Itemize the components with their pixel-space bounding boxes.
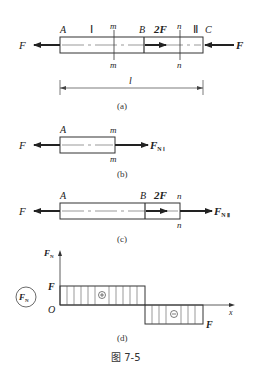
x-axis-arrow-icon (229, 303, 235, 307)
panel-b: F A m m FN Ⅰ (b) (18, 124, 165, 179)
point-b-label: B (140, 190, 146, 201)
panel-b-caption: (b) (117, 169, 128, 179)
panel-c: F A B 2F n n FN Ⅱ (c) (18, 189, 230, 244)
force-left-label: F (18, 39, 26, 51)
point-a-label: A (59, 190, 67, 201)
length-label: l (129, 75, 132, 86)
section-m-bottom-label: m (110, 60, 117, 70)
section-n-bottom-label: n (177, 220, 182, 230)
pos-value-label: F (47, 281, 55, 292)
internal-force-label: FN Ⅱ (213, 205, 230, 218)
neg-value-label: F (205, 319, 213, 330)
dim-arrow-left-icon (60, 86, 66, 90)
panel-d: FN F O x F FN (d) (16, 248, 235, 343)
point-b-label: B (139, 24, 145, 35)
y-axis-arrow-icon (58, 250, 62, 256)
segment-i-label: Ⅰ (90, 23, 93, 35)
force-right-label: F (235, 39, 244, 51)
figure-caption: 图 7-5 (111, 352, 141, 363)
force-left-label: F (18, 205, 26, 217)
panel-a: F A Ⅰ m m B 2F n n Ⅱ C F l (a) (18, 21, 244, 111)
section-m-top-label: m (110, 125, 117, 135)
section-n-top-label: n (177, 191, 182, 201)
internal-force-label: FN Ⅰ (149, 139, 165, 152)
origin-label: O (48, 304, 55, 315)
point-a-label: A (59, 24, 67, 35)
force-2f-label: 2F (153, 189, 168, 201)
y-axis-label: FN (43, 248, 54, 259)
panel-c-caption: (c) (117, 234, 127, 244)
point-c-label: C (205, 24, 212, 35)
force-2f-label: 2F (153, 23, 168, 35)
figure-7-5: F A Ⅰ m m B 2F n n Ⅱ C F l (a) F A m m F… (0, 0, 255, 373)
x-axis-label: x (228, 308, 233, 317)
panel-a-caption: (a) (117, 101, 127, 111)
dim-arrow-right-icon (197, 86, 203, 90)
section-n-top-label: n (177, 21, 182, 31)
panel-d-caption: (d) (117, 333, 128, 343)
section-m-bottom-label: m (110, 154, 117, 164)
section-m-top-label: m (110, 21, 117, 31)
point-a-label: A (59, 124, 67, 135)
section-n-bottom-label: n (177, 60, 182, 70)
force-left-label: F (18, 139, 26, 151)
segment-ii-label: Ⅱ (193, 23, 198, 35)
